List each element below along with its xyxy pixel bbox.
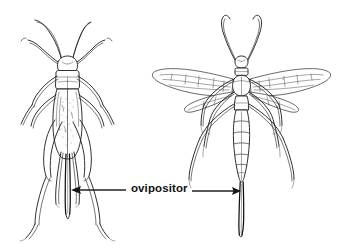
cricket-antennae: [35, 20, 91, 62]
wasp-right-forewing: [250, 69, 331, 96]
specimen-wasp: [152, 15, 330, 237]
ovipositor-label: ovipositor: [131, 182, 188, 195]
insect-diagram: [0, 0, 359, 248]
wasp-head: [235, 56, 248, 68]
figure-root: ovipositor: [0, 0, 359, 248]
cricket-ovipositor: [65, 154, 70, 219]
specimen-cricket: [20, 20, 115, 241]
wasp-abdomen: [233, 110, 249, 182]
wasp-ovipositor: [239, 182, 244, 237]
wasp-left-forewing: [152, 69, 233, 96]
